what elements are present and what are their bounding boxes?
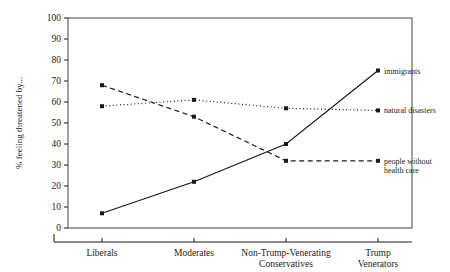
data-point-marker bbox=[284, 106, 288, 110]
x-axis-category-label: Conservatives bbox=[259, 259, 313, 269]
x-axis-category-label: Moderates bbox=[174, 248, 214, 258]
data-point-marker bbox=[284, 159, 288, 163]
x-axis-category-label: Venerators bbox=[358, 259, 399, 269]
series-line-natural-disasters bbox=[102, 100, 378, 111]
y-axis-tick-label: 0 bbox=[56, 223, 61, 233]
y-axis-tick-label: 10 bbox=[52, 202, 62, 212]
x-axis-category-label: Non-Trump-Venerating bbox=[241, 248, 331, 258]
series-line-immigrants bbox=[102, 71, 378, 214]
y-axis-tick-label: 30 bbox=[52, 160, 62, 170]
series-label-people-without-health-care: health care bbox=[384, 166, 419, 175]
y-axis-title: % feeling threatened by... bbox=[14, 77, 24, 169]
series-label-people-without-health-care: people without bbox=[384, 157, 433, 166]
series-label-natural-disasters: natural disasters bbox=[384, 106, 436, 115]
x-axis-category-label: Liberals bbox=[86, 248, 117, 258]
data-point-marker bbox=[376, 159, 380, 163]
line-chart: 0102030405060708090100% feeling threaten… bbox=[0, 0, 450, 272]
y-axis-tick-label: 50 bbox=[52, 118, 62, 128]
x-axis-category-label: Trump bbox=[365, 248, 391, 258]
series-line-people-without-health-care bbox=[102, 85, 378, 161]
y-axis-tick-label: 80 bbox=[52, 55, 62, 65]
data-point-marker bbox=[376, 69, 380, 73]
data-point-marker bbox=[192, 180, 196, 184]
y-axis-tick-label: 40 bbox=[52, 139, 62, 149]
y-axis-tick-label: 70 bbox=[52, 76, 62, 86]
y-axis-tick-label: 60 bbox=[52, 97, 62, 107]
chart-container: 0102030405060708090100% feeling threaten… bbox=[0, 0, 450, 272]
data-point-marker bbox=[376, 108, 380, 112]
data-point-marker bbox=[192, 115, 196, 119]
data-point-marker bbox=[192, 98, 196, 102]
plot-frame bbox=[68, 18, 412, 228]
y-axis-tick-label: 90 bbox=[52, 34, 62, 44]
data-point-marker bbox=[100, 104, 104, 108]
y-axis-tick-label: 20 bbox=[52, 181, 62, 191]
data-point-marker bbox=[100, 83, 104, 87]
series-label-immigrants: immigrants bbox=[384, 67, 420, 76]
data-point-marker bbox=[100, 211, 104, 215]
y-axis-tick-label: 100 bbox=[47, 13, 62, 23]
data-point-marker bbox=[284, 142, 288, 146]
